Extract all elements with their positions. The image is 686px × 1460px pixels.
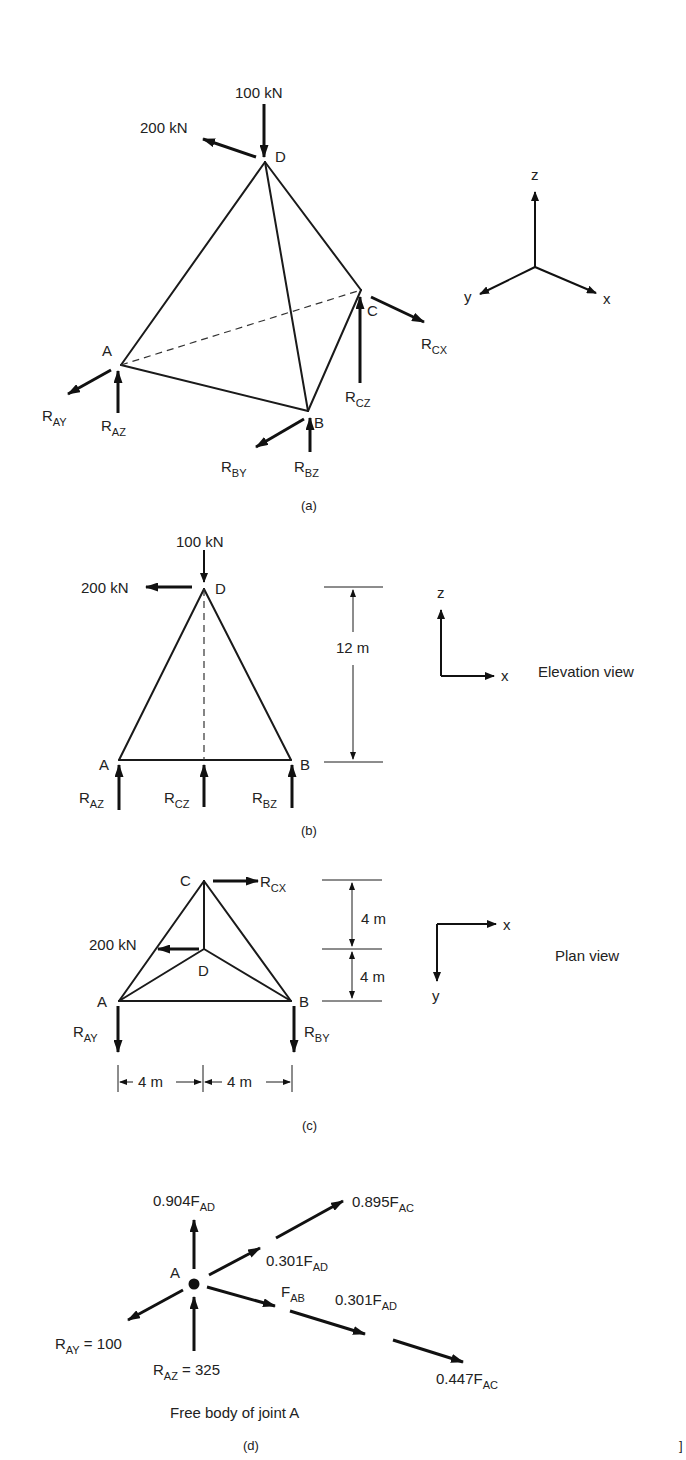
figure-d-free-body: A 0.904FAD 0.301FAD 0.895FAC FAB 0.301FA… <box>55 1192 498 1453</box>
reaction-label-RBY: RBY <box>221 458 247 479</box>
axis-label-y: y <box>432 987 440 1004</box>
member-BC <box>204 881 291 1001</box>
axis-label-x: x <box>501 667 509 684</box>
node-label-C: C <box>180 872 191 889</box>
figure-c-plan: 200 kN RCX C D A B RAY RBY 4 m 4 m <box>73 872 619 1133</box>
reaction-label-RBZ: RBZ <box>252 789 277 810</box>
force-arrow-0895FAC <box>276 1201 343 1238</box>
force-arrow-FAB <box>207 1287 275 1306</box>
load-arrow-200kn <box>203 139 256 157</box>
node-label-D: D <box>215 580 226 597</box>
figure-a-isometric: 100 kN 200 kN D A B C RAY RAZ RBY RBZ RC… <box>42 84 611 513</box>
reaction-label-RAZ: RAZ <box>101 417 126 438</box>
force-label-0301FAD-a: 0.301FAD <box>266 1252 328 1273</box>
dimension-vertical-4m-4m: 4 m 4 m <box>322 880 386 1001</box>
caption-a: (a) <box>301 498 317 513</box>
force-label-FAB: FAB <box>281 1283 305 1304</box>
axes-2d-xy-icon: x y <box>432 916 511 1004</box>
axis-label-x: x <box>603 290 611 307</box>
dimension-label-lower-4m: 4 m <box>360 968 385 985</box>
reaction-label-RAZ: RAZ = 325 <box>153 1361 220 1382</box>
force-arrow-0447FAC <box>393 1340 463 1362</box>
reaction-label-RCZ: RCZ <box>345 388 371 409</box>
member-AD <box>121 162 265 365</box>
dimension-label-right-4m: 4 m <box>227 1073 252 1090</box>
member-AD <box>119 589 204 760</box>
axes-2d-xz-icon: z x <box>437 584 509 684</box>
view-label-elevation: Elevation view <box>538 663 634 680</box>
node-label-A: A <box>170 1264 180 1281</box>
caption-b: (b) <box>301 823 317 838</box>
node-label-B: B <box>300 756 310 773</box>
force-label-0447FAC: 0.447FAC <box>436 1370 498 1391</box>
reaction-label-RAY: RAY <box>73 1023 98 1044</box>
load-label-100kn: 100 kN <box>176 533 224 550</box>
reaction-label-RCX: RCX <box>260 873 287 894</box>
load-label-200kn: 200 kN <box>81 579 129 596</box>
node-label-D: D <box>275 148 286 165</box>
node-label-D: D <box>198 962 209 979</box>
node-label-A: A <box>97 993 107 1010</box>
reaction-arrow-RAY <box>128 1290 183 1320</box>
caption-c: (c) <box>302 1118 317 1133</box>
force-label-0904FAD: 0.904FAD <box>153 1192 215 1213</box>
force-label-0895FAC: 0.895FAC <box>352 1193 414 1214</box>
axis-label-z: z <box>531 166 539 183</box>
reaction-label-RCX: RCX <box>421 335 448 356</box>
view-label-plan: Plan view <box>555 947 619 964</box>
member-AC-hidden <box>121 290 361 365</box>
reaction-arrow-RAY <box>68 370 111 394</box>
force-arrow-0301FAD-a <box>209 1248 260 1275</box>
joint-A-dot <box>189 1279 200 1290</box>
force-label-0301FAD-b: 0.301FAD <box>335 1291 397 1312</box>
reaction-arrow-RCX <box>371 297 424 322</box>
free-body-title: Free body of joint A <box>170 1404 299 1421</box>
reaction-label-RAY: RAY <box>42 407 67 428</box>
load-label-200kn: 200 kN <box>89 936 137 953</box>
dimension-label-upper-4m: 4 m <box>361 910 386 927</box>
member-BD <box>204 949 291 1001</box>
node-label-B: B <box>314 414 324 431</box>
load-label-200kn: 200 kN <box>140 119 188 136</box>
reaction-label-RAZ: RAZ <box>79 789 104 810</box>
axis-label-y: y <box>464 288 472 305</box>
member-AB <box>121 365 308 411</box>
reaction-arrow-RBY <box>256 419 304 447</box>
reaction-label-RBY: RBY <box>304 1023 330 1044</box>
reaction-label-RAY: RAY = 100 <box>55 1335 122 1356</box>
dimension-horizontal-4m-4m: 4 m 4 m <box>118 1065 292 1092</box>
load-label-100kn: 100 kN <box>235 84 283 101</box>
member-BD <box>265 162 308 411</box>
axis-label-z: z <box>437 584 445 601</box>
caption-d: (d) <box>243 1438 259 1453</box>
axis-label-x: x <box>503 916 511 933</box>
member-AD <box>119 949 204 1001</box>
force-arrow-0301FAD-b <box>290 1311 365 1334</box>
reaction-label-RBZ: RBZ <box>294 458 319 479</box>
axes-3d-icon: z y x <box>464 166 611 307</box>
node-label-A: A <box>102 342 112 359</box>
node-label-B: B <box>299 993 309 1010</box>
node-label-C: C <box>367 302 378 319</box>
dimension-label-left-4m: 4 m <box>138 1073 163 1090</box>
node-label-A: A <box>99 756 109 773</box>
figure-b-elevation: 100 kN 200 kN D A B RAZ RCZ RBZ 12 m z x… <box>79 533 634 838</box>
dimension-12m: 12 m <box>324 587 383 762</box>
space-truss-figure: 100 kN 200 kN D A B C RAY RAZ RBY RBZ RC… <box>0 0 686 1460</box>
member-CD <box>265 162 361 290</box>
margin-bracket-mark: ] <box>679 1438 683 1453</box>
dimension-label-12m: 12 m <box>336 639 369 656</box>
reaction-label-RCZ: RCZ <box>164 789 190 810</box>
member-BD <box>204 589 291 760</box>
